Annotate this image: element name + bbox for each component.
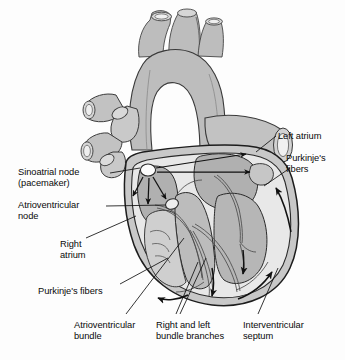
- sinoatrial-node: [140, 164, 155, 176]
- label-sinoatrial-node: Sinoatrial node (pacemaker): [18, 167, 79, 189]
- label-left-atrium: Left atrium: [278, 131, 321, 142]
- label-purkinje-right: Purkinje's fibers: [286, 153, 326, 175]
- label-atrioventricular-node: Atrioventricular node: [18, 200, 79, 222]
- label-right-atrium: Right atrium: [60, 239, 86, 261]
- label-purkinje-left: Purkinje's fibers: [38, 286, 102, 297]
- label-interventricular-septum: Interventricular septum: [243, 320, 304, 342]
- heart-conduction-diagram: Left atrium Purkinje's fibers Sinoatrial…: [0, 0, 345, 360]
- label-bundle-branches: Right and left bundle branches: [156, 320, 224, 342]
- label-atrioventricular-bundle: Atrioventricular bundle: [74, 320, 135, 342]
